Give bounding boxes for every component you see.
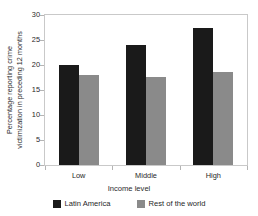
x-axis-tick-label: Middle (135, 171, 157, 180)
legend-swatch-icon (137, 200, 145, 208)
bar-low-latin-america (59, 65, 79, 165)
y-axis-tick-label: 10 (32, 110, 40, 119)
x-axis-tick-label: High (206, 171, 221, 180)
legend-swatch-icon (53, 200, 61, 208)
x-axis-tick-mark (112, 166, 113, 170)
legend-label: Latin America (65, 199, 111, 208)
y-axis-title: Percentage reporting crime victimization… (0, 0, 28, 180)
y-axis-tick-label: 0 (36, 160, 40, 169)
x-axis-tick-labels: LowMiddleHigh (44, 171, 248, 183)
bar-middle-rest-of-the-world (146, 77, 166, 165)
y-axis-tick-label: 30 (32, 10, 40, 19)
plot-area (45, 15, 247, 165)
bar-low-rest-of-the-world (79, 75, 99, 165)
y-axis-tick-label: 15 (32, 85, 40, 94)
x-axis-tick-label: Low (72, 171, 86, 180)
x-axis-title: Income level (0, 184, 258, 193)
bar-chart: Percentage reporting crime victimization… (0, 0, 258, 216)
legend-item-latin-america[interactable]: Latin America (53, 199, 111, 208)
x-axis-tick-mark (180, 166, 181, 170)
y-axis-title-line-2: victimization in preceding 12 months (14, 31, 24, 149)
x-axis-tick-mark (45, 166, 46, 170)
x-axis-tick-mark (247, 166, 248, 170)
chart-legend: Latin AmericaRest of the world (0, 199, 258, 208)
legend-item-rest-of-the-world[interactable]: Rest of the world (137, 199, 206, 208)
bar-high-rest-of-the-world (213, 72, 233, 166)
y-axis-tick-label: 20 (32, 60, 40, 69)
y-axis-title-line-1: Percentage reporting crime (5, 31, 15, 149)
y-axis-tick-label: 5 (36, 135, 40, 144)
legend-label: Rest of the world (149, 199, 206, 208)
bar-middle-latin-america (126, 45, 146, 165)
bar-high-latin-america (193, 28, 213, 166)
y-axis-tick-labels: 051015202530 (26, 14, 40, 166)
y-axis-tick-label: 25 (32, 35, 40, 44)
